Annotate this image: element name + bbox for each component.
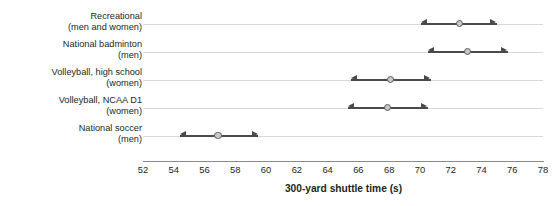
data-point-marker: [387, 76, 394, 83]
x-axis-tick-label: 78: [538, 164, 548, 175]
category-label-line1: Volleyball, NCAA D1: [28, 95, 142, 106]
plot-area: [143, 0, 543, 162]
category-label-volleyball-high-school: Volleyball, high school (women): [28, 67, 142, 90]
category-label-volleyball-ncaa-d1: Volleyball, NCAA D1 (women): [28, 95, 142, 118]
category-label-national-badminton: National badminton (men): [28, 39, 142, 62]
category-label-line1: Volleyball, high school: [28, 67, 142, 78]
arrow-left-icon: [421, 19, 427, 25]
category-label-line2: (men and women): [28, 22, 142, 33]
data-point-marker: [464, 48, 471, 55]
x-axis-tick-label: 64: [322, 164, 332, 175]
x-axis-tick-labels: 5254565860626466687072747678: [143, 164, 544, 178]
category-label-line2: (men): [28, 50, 142, 61]
arrow-left-icon: [428, 47, 434, 53]
x-axis-tick-label: 72: [445, 164, 455, 175]
data-point-marker: [214, 132, 221, 139]
x-axis-tick-label: 60: [261, 164, 271, 175]
x-axis-tick-label: 58: [230, 164, 240, 175]
arrow-right-icon: [252, 131, 258, 137]
x-axis-tick-label: 66: [353, 164, 363, 175]
shuttle-time-chart: Group Recreational (men and women) Natio…: [0, 0, 555, 206]
category-label-national-soccer: National soccer (men): [28, 123, 142, 146]
category-label-list: Recreational (men and women) National ba…: [28, 0, 142, 160]
x-axis-line: [143, 161, 544, 162]
x-axis-tick-label: 54: [169, 164, 179, 175]
data-point-marker: [384, 104, 391, 111]
series-row-recreational-men-and-women: [143, 17, 543, 31]
series-row-national-badminton-men: [143, 45, 543, 59]
category-label-line1: National badminton: [28, 39, 142, 50]
series-row-volleyball-high-school-women: [143, 73, 543, 87]
arrow-left-icon: [348, 103, 354, 109]
category-label-recreational: Recreational (men and women): [28, 11, 142, 34]
x-axis-tick-label: 68: [384, 164, 394, 175]
x-axis-tick-label: 52: [138, 164, 148, 175]
arrow-right-icon: [501, 47, 507, 53]
arrow-left-icon: [351, 75, 357, 81]
arrow-left-icon: [180, 131, 186, 137]
category-label-line1: National soccer: [28, 123, 142, 134]
series-row-national-soccer-men: [143, 129, 543, 143]
x-axis-tick-label: 76: [507, 164, 517, 175]
data-point-marker: [456, 20, 463, 27]
y-axis-title: Group: [0, 0, 24, 206]
x-axis-title: 300-yard shuttle time (s): [143, 183, 544, 194]
category-label-line2: (men): [28, 134, 142, 145]
arrow-right-icon: [490, 19, 496, 25]
category-label-line1: Recreational: [28, 11, 142, 22]
x-axis-tick-label: 74: [476, 164, 486, 175]
arrow-right-icon: [424, 75, 430, 81]
series-row-volleyball-ncaa-d1-women: [143, 101, 543, 115]
x-axis-tick-label: 70: [415, 164, 425, 175]
x-axis-tick-label: 56: [199, 164, 209, 175]
x-axis-tick-label: 62: [292, 164, 302, 175]
category-label-line2: (women): [28, 106, 142, 117]
arrow-right-icon: [421, 103, 427, 109]
category-label-line2: (women): [28, 78, 142, 89]
